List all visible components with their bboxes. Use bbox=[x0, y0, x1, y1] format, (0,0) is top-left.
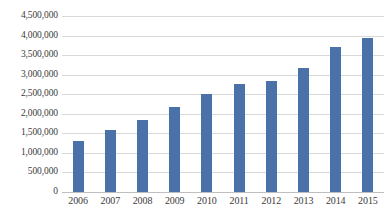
bar bbox=[137, 120, 148, 192]
x-axis-line bbox=[62, 192, 384, 193]
bar bbox=[105, 130, 116, 192]
y-tick-label: 1,000,000 bbox=[0, 148, 58, 158]
x-tick-label: 2007 bbox=[100, 196, 120, 206]
y-tick-label: 3,000,000 bbox=[0, 70, 58, 80]
y-tick-label: 2,000,000 bbox=[0, 109, 58, 119]
bar bbox=[234, 84, 245, 192]
bars-layer bbox=[62, 16, 384, 192]
bar-chart: 0500,0001,000,0001,500,0002,000,0002,500… bbox=[0, 0, 390, 221]
y-tick-label: 4,500,000 bbox=[0, 11, 58, 21]
x-axis: 2006200720082009201020112012201320142015 bbox=[62, 194, 384, 216]
x-tick-label: 2010 bbox=[197, 196, 217, 206]
bar bbox=[330, 47, 341, 192]
x-tick-label: 2012 bbox=[261, 196, 281, 206]
y-tick-label: 4,000,000 bbox=[0, 31, 58, 41]
x-tick-label: 2008 bbox=[133, 196, 153, 206]
x-tick-label: 2009 bbox=[165, 196, 185, 206]
bar bbox=[266, 81, 277, 192]
bar bbox=[298, 68, 309, 192]
x-tick-label: 2006 bbox=[68, 196, 88, 206]
x-tick-label: 2011 bbox=[229, 196, 248, 206]
y-tick-label: 0 bbox=[0, 187, 58, 197]
bar bbox=[73, 141, 84, 192]
y-tick-label: 3,500,000 bbox=[0, 50, 58, 60]
y-tick-label: 500,000 bbox=[0, 168, 58, 178]
x-tick-label: 2015 bbox=[358, 196, 378, 206]
y-tick-label: 1,500,000 bbox=[0, 129, 58, 139]
x-tick-label: 2013 bbox=[294, 196, 314, 206]
bar bbox=[201, 94, 212, 192]
y-axis: 0500,0001,000,0001,500,0002,000,0002,500… bbox=[0, 16, 58, 192]
bar bbox=[362, 38, 373, 192]
x-tick-label: 2014 bbox=[326, 196, 346, 206]
bar bbox=[169, 107, 180, 192]
y-tick-label: 2,500,000 bbox=[0, 89, 58, 99]
